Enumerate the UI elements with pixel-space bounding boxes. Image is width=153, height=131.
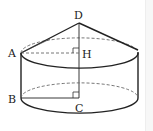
cone-cylinder-diagram: D A H B C — [0, 0, 153, 131]
right-angle-C — [73, 92, 79, 98]
top-ellipse-front — [21, 53, 138, 68]
label-H: H — [82, 48, 92, 61]
bottom-ellipse-back-dashed — [21, 83, 138, 98]
label-C: C — [75, 102, 83, 115]
label-A: A — [7, 47, 17, 60]
top-ellipse-back-dashed — [21, 38, 138, 53]
label-B: B — [8, 93, 16, 106]
right-angle-H — [73, 48, 79, 53]
label-D: D — [74, 9, 83, 22]
cone-edge-right — [79, 23, 138, 50]
cone-inner-line — [21, 39, 50, 53]
